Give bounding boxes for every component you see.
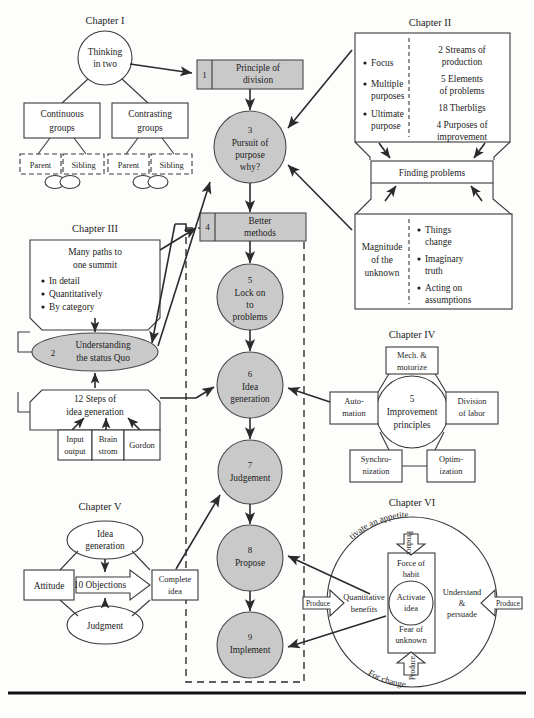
ch2-right-item-1a: 2 Streams of [438, 45, 486, 55]
ch4-n5b: ization [440, 467, 464, 476]
ch2-lr-2b: truth [425, 266, 443, 276]
step7-judgement[interactable] [218, 440, 282, 504]
thinking-in-two-circle[interactable] [78, 31, 132, 85]
step8-line1: Propose [235, 558, 265, 568]
ch2-right-item-2a: 5 Elements [441, 74, 483, 84]
ch2-arrow-down-left [379, 143, 390, 158]
understanding-number: 2 [51, 348, 56, 358]
leaf-sibling-2-label: Sibling [159, 161, 184, 170]
edge-thinking-to-principle [130, 64, 192, 73]
chapter4-label: Chapter IV [389, 329, 436, 340]
edge-root-continuous [62, 79, 88, 103]
edge-manypaths-to-step4 [160, 228, 196, 250]
ch6-fear-2: unknown [395, 636, 427, 645]
ch5-left: Attitude [34, 581, 65, 591]
step1-line1: Principle of [236, 63, 281, 73]
chapter3-label: Chapter III [72, 223, 118, 234]
ch6-understand-2: & [459, 599, 466, 608]
many-paths-line1: Many paths to [68, 247, 122, 257]
ch4-center-2: Improvement [387, 407, 438, 417]
understanding-line1: Understanding [75, 340, 131, 350]
ch2-arrow-up-right [471, 186, 482, 201]
bullet-dot [417, 228, 420, 231]
ch5-right-2: idea [168, 587, 182, 596]
step5-line2: to [246, 300, 254, 310]
ch6-activate-2: idea [404, 604, 418, 613]
edge-contr-parent [126, 138, 138, 154]
ch4-n3a: Division [458, 397, 488, 406]
ch2-left-item-2a: Multiple [371, 79, 403, 89]
step7-number: 7 [248, 460, 253, 470]
bullet-dot [363, 61, 366, 64]
ch4-n1a: Mech. & [397, 351, 427, 360]
ch3-bullet-3: By category [49, 302, 95, 312]
ch5-center: 10 Objections [74, 580, 127, 590]
magnitude-line2: of the [371, 255, 393, 265]
ch2-right-item-4b: improvement [437, 132, 487, 142]
cell2-line2: strom [98, 447, 118, 456]
bullet-dot [417, 286, 420, 289]
ch5-bottom: Judgment [87, 621, 124, 631]
step6-line2: generation [230, 394, 270, 404]
ch6-quant-1: Quantitative [343, 593, 385, 602]
idea-generation-ellipse[interactable] [67, 521, 143, 559]
ch4-n2a: Auto- [344, 397, 364, 406]
continuous-groups-line1: Continuous [40, 109, 84, 119]
step1-line2: division [243, 75, 274, 85]
ch4-n4b: nization [363, 467, 391, 476]
step9-line1: Implement [230, 645, 271, 655]
edge-12steps-to-step6 [196, 387, 214, 398]
ch3-bullet-1: In detail [49, 276, 80, 286]
bullet-dot [41, 279, 44, 282]
infinity-symbol-1 [45, 176, 80, 189]
ch4-center-3: principles [394, 420, 431, 430]
infinity-symbol-2 [133, 176, 168, 189]
ch2-left-item-1: Focus [371, 58, 394, 68]
step9-number: 9 [248, 632, 253, 642]
ch2-right-item-2b: of problems [439, 86, 484, 96]
step5-line1: Lock on [235, 288, 266, 298]
ch2-chevron-left [355, 142, 370, 160]
diagram-canvas: Chapter I Thinking in two Continuous gro… [0, 0, 534, 718]
ch6-produce-down: Produce [405, 531, 414, 556]
contrasting-groups-line1: Contrasting [128, 109, 172, 119]
ch4-n2b: mation [342, 409, 366, 418]
step4-line1: Better [249, 216, 273, 226]
ch5-top-2: generation [85, 541, 125, 551]
edge-cont-sibling [74, 138, 86, 154]
step3-line3: why? [240, 162, 260, 172]
ch4-center-1: 5 [410, 394, 415, 404]
edge-contr-sibling [162, 138, 174, 154]
bullet-dot [363, 82, 366, 85]
thinking-in-two-line2: in two [93, 59, 117, 69]
ch6-produce-right: Produce [496, 599, 521, 608]
activate-idea-circle[interactable] [389, 581, 433, 625]
ch2-arrow-up-left [385, 186, 396, 201]
chapter6-label: Chapter VI [389, 497, 436, 508]
bullet-dot [417, 257, 420, 260]
edge-understanding-to-step3 [158, 182, 210, 346]
ch5-top-1: Idea [97, 529, 114, 539]
ch2-right-item-3: 18 Therbligs [438, 103, 486, 113]
ch2-left-item-2b: purposes [371, 91, 405, 101]
ch4-n3b: of labor [459, 409, 485, 418]
ch5-edge-1 [60, 551, 78, 570]
leaf-sibling-1-label: Sibling [71, 161, 96, 170]
edge-root-contrasting [122, 79, 148, 103]
cell1-line1: Input [66, 435, 84, 444]
flowchart-svg: Chapter I Thinking in two Continuous gro… [0, 0, 534, 718]
step5-number: 5 [248, 275, 253, 285]
bullet-dot [41, 305, 44, 308]
ch2-right-item-4a: 4 Purposes of [436, 120, 488, 130]
step1-number: 1 [202, 70, 207, 80]
ch3-hook [175, 224, 186, 232]
ch6-produce-left: Produce [306, 599, 331, 608]
step4-line2: methods [244, 228, 276, 238]
ch2-left-item-3b: purpose [371, 121, 401, 131]
twelve-steps-line1: 12 Steps of [74, 394, 117, 404]
edge-ch4-to-step6 [288, 388, 330, 402]
ch6-force-2: habit [403, 570, 420, 579]
ch2-lr-2a: Imaginary [425, 254, 464, 264]
magnitude-line3: unknown [365, 268, 400, 278]
ch2-lr-1a: Things [425, 225, 451, 235]
